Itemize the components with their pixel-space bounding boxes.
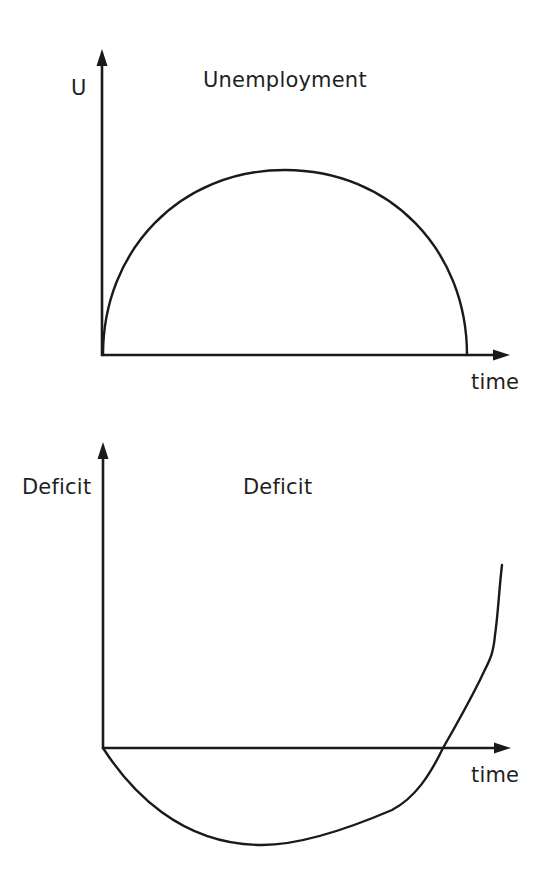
deficit-chart: Deficit Deficit time <box>0 0 553 878</box>
deficit-curve <box>103 565 502 845</box>
chart-title: Deficit <box>243 477 312 498</box>
y-axis-arrow-icon <box>98 442 109 459</box>
x-axis-label: time <box>471 765 519 786</box>
deficit-plot <box>0 0 553 878</box>
y-axis-label: Deficit <box>22 477 91 498</box>
x-axis-arrow-icon <box>494 743 511 754</box>
